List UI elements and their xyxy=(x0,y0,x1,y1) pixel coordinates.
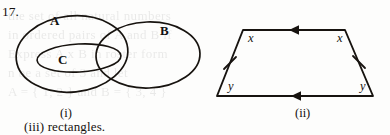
angle-label-top-right: x xyxy=(337,31,343,46)
trailing-text: (iii) rectangles. xyxy=(24,119,105,135)
venn-diagram-figure xyxy=(0,0,200,110)
trapezoid-outline xyxy=(217,30,373,96)
angle-label-bottom-left: y xyxy=(228,79,234,94)
figure-caption-ii: (ii) xyxy=(295,106,310,121)
ellipse-set-b xyxy=(95,20,201,90)
set-label-c: C xyxy=(58,52,67,68)
angle-label-bottom-right: y xyxy=(360,79,366,94)
parallel-arrow-bottom-icon xyxy=(291,91,301,101)
set-label-b: B xyxy=(160,23,169,39)
congruence-tick-left-leg-icon xyxy=(224,57,236,69)
ellipse-set-c xyxy=(36,42,121,74)
ellipse-set-a xyxy=(12,10,131,97)
set-label-a: A xyxy=(50,13,59,29)
congruence-tick-right-leg-icon xyxy=(353,56,365,68)
trapezoid-figure xyxy=(205,14,390,109)
scanned-page: the set of all natural numbers in ordere… xyxy=(0,0,390,135)
parallel-arrow-top-icon xyxy=(289,25,299,35)
angle-label-top-left: x xyxy=(248,31,254,46)
